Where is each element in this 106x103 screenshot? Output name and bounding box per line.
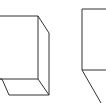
box-right-bottom-edge [82,70,101,103]
box-left-right-face [38,16,49,95]
box-right-front-face [82,9,106,70]
box-left [0,16,49,95]
boxes-diagram [0,0,106,103]
box-left-bottom-face [0,79,49,95]
box-left-front-face [0,16,38,79]
box-right [82,9,106,103]
